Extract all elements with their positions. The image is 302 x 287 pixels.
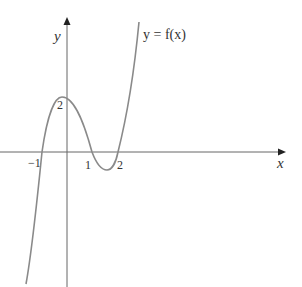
graph-canvas: y x y = f(x) 2 −1 1 2 [0, 0, 302, 287]
y-axis-arrow-icon [64, 17, 71, 25]
cubic-curve [26, 22, 139, 284]
tick-label-y-2: 2 [57, 98, 63, 112]
tick-label-x-neg1: −1 [28, 156, 41, 170]
tick-label-x-1: 1 [85, 158, 91, 172]
x-axis-label: x [276, 155, 284, 171]
curve-label: y = f(x) [143, 27, 186, 43]
tick-label-x-2: 2 [117, 158, 123, 172]
y-axis-label: y [52, 28, 61, 44]
